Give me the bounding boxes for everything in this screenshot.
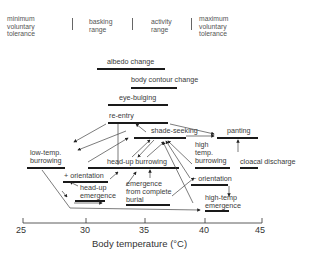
tick-25: 25 <box>16 225 26 235</box>
tick-45: 45 <box>255 225 265 235</box>
tick-35: 35 <box>139 225 149 235</box>
tick-30: 30 <box>80 225 90 235</box>
x-axis-label: Body temperature (°C) <box>92 238 187 249</box>
x-axis <box>0 0 312 259</box>
tick-40: 40 <box>199 225 209 235</box>
